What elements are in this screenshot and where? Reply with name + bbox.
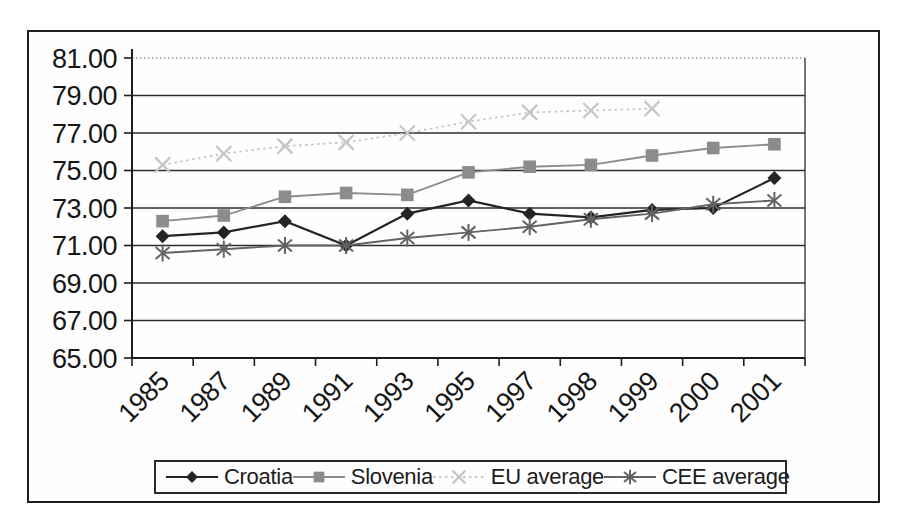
y-axis-tick-label: 81.00 xyxy=(52,44,117,74)
y-axis-tick-label: 77.00 xyxy=(52,119,117,149)
legend-item-croatia: Croatia xyxy=(166,464,293,490)
legend-label-eu-average: EU average xyxy=(491,464,604,490)
legend-item-slovenia: Slovenia xyxy=(293,464,433,490)
x-axis-tick-label: 1997 xyxy=(480,366,542,428)
chart-frame: 81.0079.0077.0075.0073.0071.0069.0067.00… xyxy=(27,30,880,503)
eu-average-x-marker-icon xyxy=(433,468,485,486)
x-axis-tick-label: 2000 xyxy=(663,366,725,428)
x-axis-tick-label: 1991 xyxy=(296,366,358,428)
x-axis-tick-label: 1998 xyxy=(541,366,603,428)
y-axis-tick-label: 69.00 xyxy=(52,269,117,299)
x-axis-tick-label: 1999 xyxy=(602,366,664,428)
legend-label-croatia: Croatia xyxy=(224,464,293,490)
x-axis-tick-label: 1993 xyxy=(357,366,419,428)
legend-label-slovenia: Slovenia xyxy=(351,464,433,490)
y-axis-tick-label: 67.00 xyxy=(52,306,117,336)
x-axis-tick-label: 2001 xyxy=(724,366,786,428)
x-axis-tick-label: 1987 xyxy=(174,366,236,428)
legend-item-cee-average: CEE average xyxy=(604,464,790,490)
y-axis-tick-label: 73.00 xyxy=(52,194,117,224)
croatia-diamond-marker-icon xyxy=(166,468,218,486)
cee-average-asterisk-marker-icon xyxy=(604,468,656,486)
x-axis-tick-label: 1995 xyxy=(418,366,480,428)
y-axis-tick-label: 75.00 xyxy=(52,156,117,186)
y-axis-tick-label: 71.00 xyxy=(52,231,117,261)
legend-item-eu-average: EU average xyxy=(433,464,604,490)
y-axis-tick-label: 65.00 xyxy=(52,344,117,374)
x-axis-tick-label: 1989 xyxy=(235,366,297,428)
x-axis-tick-label: 1985 xyxy=(113,366,175,428)
legend-label-cee-average: CEE average xyxy=(662,464,790,490)
slovenia-square-marker-icon xyxy=(293,468,345,486)
y-axis-tick-label: 79.00 xyxy=(52,81,117,111)
line-chart-plot: 81.0079.0077.0075.0073.0071.0069.0067.00… xyxy=(29,32,878,501)
chart-legend: Croatia Slovenia EU average CEE average xyxy=(154,460,787,494)
